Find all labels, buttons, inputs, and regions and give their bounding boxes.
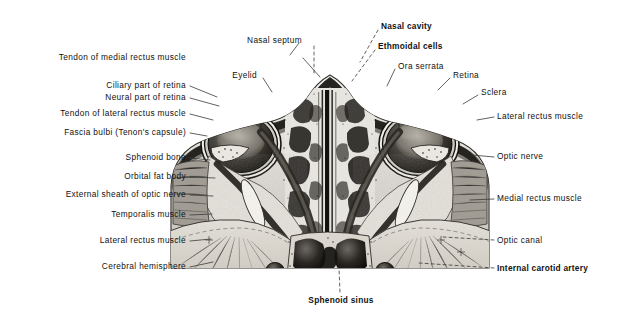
label-optic-nerve: Optic nerve [497,152,543,160]
figure-plate: Tendon of medial rectus muscle Ciliary p… [0,0,622,319]
label-nasal-septum: Nasal septum [247,36,302,44]
label-cerebral-hemisphere: Cerebral hemisphere [102,262,186,270]
label-eyelid: Eyelid [232,71,257,79]
label-fascia-bulbi: Fascia bulbi (Tenon's capsule) [64,128,186,136]
label-sclera: Sclera [481,88,507,96]
label-external-sheath-of-optic-nerve: External sheath of optic nerve [66,190,186,198]
label-optic-canal: Optic canal [497,236,542,244]
label-lateral-rectus-muscle-left: Lateral rectus muscle [100,236,186,244]
label-orbital-fat-body: Orbital fat body [124,172,186,180]
anatomical-illustration [165,36,495,279]
label-tendon-of-lateral-rectus-muscle: Tendon of lateral rectus muscle [60,109,186,117]
label-ora-serrata: Ora serrata [398,62,444,70]
label-medial-rectus-muscle: Medial rectus muscle [497,194,582,202]
label-neural-part-of-retina: Neural part of retina [105,93,186,101]
label-tendon-of-medial-rectus-muscle: Tendon of medial rectus muscle [59,53,186,61]
label-retina: Retina [453,71,479,79]
label-sphenoid-bone: Sphenoid bone [126,153,186,161]
label-nasal-cavity: Nasal cavity [381,22,432,30]
label-ciliary-part-of-retina: Ciliary part of retina [106,81,186,89]
label-lateral-rectus-muscle-right: Lateral rectus muscle [497,112,583,120]
label-internal-carotid-artery: Internal carotid artery [497,264,588,272]
label-ethmoidal-cells: Ethmoidal cells [378,42,443,50]
label-temporalis-muscle: Temporalis muscle [111,210,186,218]
label-sphenoid-sinus: Sphenoid sinus [308,296,373,304]
